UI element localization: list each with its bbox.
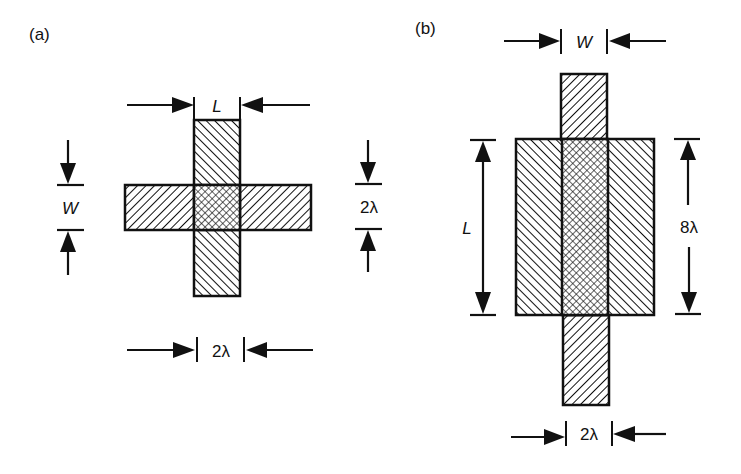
- arrow-down-icon: [475, 292, 491, 314]
- panel-a: (a) L W: [29, 25, 382, 362]
- svg-text:L: L: [462, 219, 471, 238]
- dimension-left-L: L: [462, 140, 496, 315]
- svg-text:L: L: [212, 97, 221, 116]
- dimension-top-L: L: [127, 97, 310, 120]
- arrow-left-icon: [246, 342, 267, 358]
- svg-text:2λ: 2λ: [212, 342, 230, 361]
- dimension-bottom-2lambda: 2λ: [511, 421, 666, 446]
- dimension-right-2lambda: 2λ: [355, 140, 382, 272]
- arrow-up-icon: [680, 140, 696, 160]
- panel-b: (b) W L: [415, 19, 701, 446]
- arrow-left-icon: [609, 33, 630, 49]
- dimension-right-8lambda: 8λ: [674, 139, 701, 314]
- svg-text:2λ: 2λ: [580, 425, 598, 444]
- dimension-bottom-2lambda: 2λ: [127, 337, 313, 362]
- svg-text:2λ: 2λ: [360, 198, 378, 217]
- arrow-down-icon: [360, 162, 376, 183]
- diagram-canvas: (a) L W: [0, 0, 741, 474]
- arrow-down-icon: [681, 292, 697, 313]
- panel-a-label: (a): [29, 25, 50, 44]
- overlap-region: [562, 139, 608, 315]
- arrow-up-icon: [60, 231, 76, 252]
- arrow-right-icon: [173, 342, 195, 358]
- overlap-region: [194, 185, 240, 230]
- arrow-right-icon: [172, 97, 194, 113]
- bottom-strip: [563, 315, 609, 405]
- panel-b-label: (b): [415, 19, 436, 38]
- arrow-down-icon: [60, 163, 76, 184]
- svg-text:8λ: 8λ: [680, 218, 698, 237]
- svg-text:W: W: [576, 33, 594, 52]
- top-strip: [561, 74, 607, 140]
- dimension-left-W: W: [57, 140, 84, 275]
- arrow-right-icon: [539, 33, 560, 49]
- arrow-left-icon: [241, 97, 263, 113]
- dimension-top-W: W: [504, 29, 666, 54]
- arrow-up-icon: [475, 141, 491, 162]
- arrow-right-icon: [544, 429, 565, 445]
- arrow-up-icon: [360, 230, 376, 251]
- arrow-left-icon: [613, 426, 635, 442]
- svg-text:W: W: [62, 199, 80, 218]
